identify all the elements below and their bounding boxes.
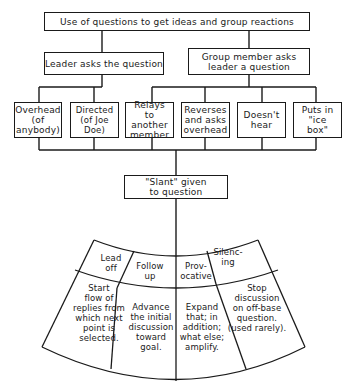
fan-type-silencing: Silenc- ing <box>210 247 246 267</box>
leaf-label: Doesn't hear <box>244 110 280 130</box>
fan-desc-lead-off: Start flow of replies from which next po… <box>70 283 128 343</box>
fan-type-lead-off: Lead off <box>96 253 126 273</box>
fan-type-provocative: Prov- ocative <box>178 261 214 281</box>
root-label: Use of questions to get ideas and group … <box>60 17 294 27</box>
leaf-ice-box: Puts in "ice box" <box>293 102 342 138</box>
leaf-label: Overhead (of anybody) <box>15 105 61 135</box>
fan-desc-silencing: Stop discussion on off-base question. (u… <box>226 283 288 333</box>
fan-desc-follow-up: Advance the initial discussion toward go… <box>126 302 176 352</box>
branch-group-member-asks: Group member asks leader a question <box>188 48 310 75</box>
root-box: Use of questions to get ideas and group … <box>44 12 310 31</box>
leaf-reverses: Reverses and asks overhead <box>181 102 230 138</box>
slant-box: "Slant" given to question <box>124 175 228 199</box>
leaf-overhead: Overhead (of anybody) <box>14 102 62 138</box>
leaf-directed: Directed (of Joe Doe) <box>70 102 119 138</box>
leaf-label: Directed (of Joe Doe) <box>72 105 117 135</box>
branch-label: Leader asks the question <box>45 59 163 69</box>
leaf-label: Puts in "ice box" <box>300 105 335 135</box>
slant-label: "Slant" given to question <box>143 177 209 197</box>
leaf-label: Reverses and asks overhead <box>184 105 228 135</box>
branch-label: Group member asks leader a question <box>199 52 299 72</box>
leaf-doesnt-hear: Doesn't hear <box>237 102 286 138</box>
leaf-relays: Relays to another member <box>125 102 174 138</box>
fan-desc-provocative: Expand that; in addition; what else; amp… <box>177 302 227 352</box>
fan-type-follow-up: Follow up <box>128 261 172 281</box>
leaf-label: Relays to another member <box>129 100 170 140</box>
branch-leader-asks: Leader asks the question <box>44 52 164 75</box>
